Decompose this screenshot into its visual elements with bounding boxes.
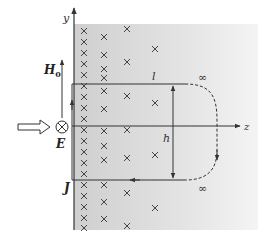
h-label: h — [163, 132, 170, 145]
infinity-bottom-label: ∞ — [198, 182, 207, 195]
e-field-into-page-icon — [56, 121, 68, 133]
j-label: J — [62, 181, 71, 195]
skin-effect-diagram: y z H0 E J h l ∞ ∞ — [0, 0, 258, 249]
h0-label: H0 — [43, 63, 61, 79]
y-axis-label: y — [62, 12, 70, 25]
z-axis-label: z — [243, 121, 250, 132]
l-label: l — [152, 70, 156, 83]
infinity-top-label: ∞ — [198, 71, 207, 84]
incident-wave-arrow — [18, 120, 50, 134]
e-label: E — [55, 137, 66, 151]
